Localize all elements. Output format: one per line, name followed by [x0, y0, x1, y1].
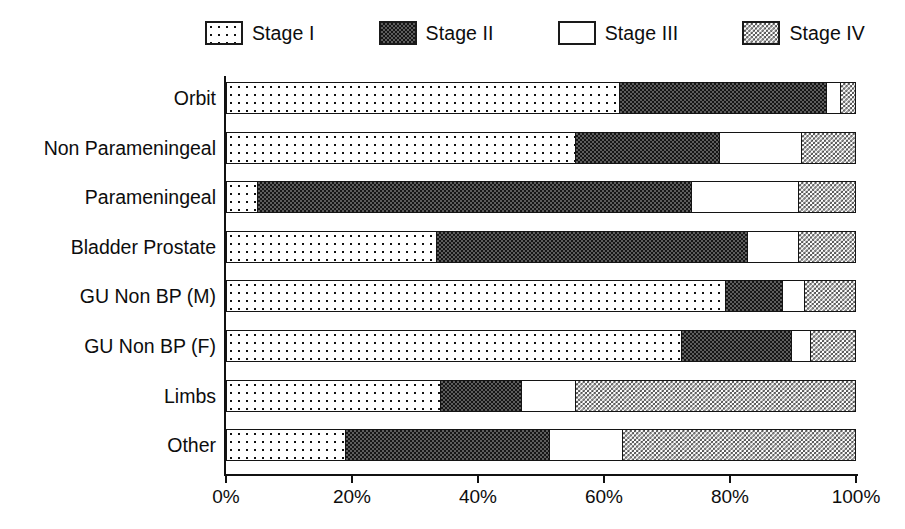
x-axis-tick-label: 20%	[333, 486, 371, 508]
bar-segment-stage-ii	[441, 381, 523, 411]
bar-segment-stage-iv	[841, 83, 855, 113]
y-axis-category-labels: OrbitNon ParameningealParameningealBladd…	[0, 76, 216, 474]
y-axis-label-gu-non-bp-m: GU Non BP (M)	[80, 280, 216, 312]
x-axis-tick-label: 40%	[459, 486, 497, 508]
bar-segment-stage-i	[227, 430, 346, 460]
bar-segment-stage-iv	[802, 133, 855, 163]
bar-segment-stage-iii	[748, 232, 798, 262]
bar-row	[226, 82, 856, 114]
bar-row	[226, 380, 856, 412]
legend-swatch-icon	[379, 21, 417, 45]
legend-swatch-icon	[205, 21, 243, 45]
bar-segment-stage-iv	[805, 281, 855, 311]
bar-segment-stage-ii	[620, 83, 827, 113]
bar-segment-stage-ii	[258, 182, 691, 212]
x-axis-tick	[855, 474, 857, 483]
bar-segment-stage-ii	[576, 133, 720, 163]
y-axis-label-non-parameningeal: Non Parameningeal	[44, 132, 216, 164]
legend-swatch-icon	[558, 21, 596, 45]
legend-label: Stage IV	[789, 22, 865, 45]
x-axis-tick-label: 60%	[585, 486, 623, 508]
legend-item-stage-iii[interactable]: Stage III	[558, 21, 679, 45]
legend-item-stage-iv[interactable]: Stage IV	[742, 21, 865, 45]
bar-segment-stage-ii	[437, 232, 748, 262]
bar-segment-stage-iii	[792, 331, 811, 361]
y-axis-label-parameningeal: Parameningeal	[85, 181, 216, 213]
bar-segment-stage-i	[227, 281, 726, 311]
stacked-bar-chart: Stage IStage IIStage IIIStage IV OrbitNo…	[0, 0, 905, 529]
legend-label: Stage III	[605, 22, 679, 45]
bar-segment-stage-ii	[726, 281, 783, 311]
bar-segment-stage-i	[227, 182, 258, 212]
chart-legend: Stage IStage IIStage IIIStage IV	[205, 14, 865, 52]
bar-segment-stage-ii	[346, 430, 550, 460]
y-axis-label-other: Other	[167, 429, 216, 461]
y-axis-label-orbit: Orbit	[174, 82, 216, 114]
bar-segment-stage-iv	[799, 232, 856, 262]
bar-segment-stage-iii	[783, 281, 805, 311]
bar-segment-stage-i	[227, 381, 441, 411]
legend-item-stage-i[interactable]: Stage I	[205, 21, 315, 45]
bar-segment-stage-i	[227, 83, 620, 113]
legend-label: Stage I	[252, 22, 315, 45]
bar-segment-stage-iii	[827, 83, 841, 113]
bar-segment-stage-iii	[720, 133, 802, 163]
y-axis-label-gu-non-bp-f: GU Non BP (F)	[84, 330, 216, 362]
bar-row	[226, 132, 856, 164]
x-axis-tick	[351, 474, 353, 483]
x-axis-tick	[477, 474, 479, 483]
bar-row	[226, 429, 856, 461]
x-axis-tick-label: 0%	[212, 486, 239, 508]
bar-segment-stage-iii	[522, 381, 575, 411]
bar-segment-stage-iv	[576, 381, 855, 411]
legend-swatch-icon	[742, 21, 780, 45]
x-axis-line	[224, 474, 858, 476]
x-axis-tick	[603, 474, 605, 483]
bar-segment-stage-iv	[799, 182, 856, 212]
x-axis-tick	[225, 474, 227, 483]
bar-segment-stage-iv	[623, 430, 855, 460]
bar-segment-stage-ii	[682, 331, 792, 361]
plot-area: 0%20%40%60%80%100%	[226, 76, 856, 474]
bar-row	[226, 280, 856, 312]
y-axis-label-bladder-prostate: Bladder Prostate	[71, 231, 216, 263]
bar-segment-stage-i	[227, 232, 437, 262]
bar-segment-stage-iii	[692, 182, 799, 212]
x-axis-tick	[729, 474, 731, 483]
x-axis-tick-label: 100%	[832, 486, 881, 508]
bar-segment-stage-i	[227, 331, 682, 361]
bar-segment-stage-iv	[811, 331, 855, 361]
bar-row	[226, 181, 856, 213]
y-axis-label-limbs: Limbs	[164, 380, 216, 412]
x-axis-tick-label: 80%	[711, 486, 749, 508]
bar-row	[226, 330, 856, 362]
bar-row	[226, 231, 856, 263]
legend-item-stage-ii[interactable]: Stage II	[379, 21, 494, 45]
bar-segment-stage-iii	[550, 430, 622, 460]
legend-label: Stage II	[426, 22, 494, 45]
bar-segment-stage-i	[227, 133, 576, 163]
